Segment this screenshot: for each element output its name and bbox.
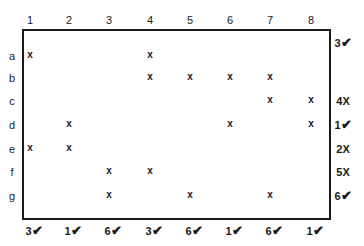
grid-mark: x [187,190,193,200]
check-icon: ✔ [111,223,122,238]
column-label: 7 [267,14,273,26]
column-label: 2 [66,14,72,26]
column-label: 5 [187,14,193,26]
column-tally: 3✔ [145,225,162,237]
grid-mark: x [106,166,112,176]
grid-mark: x [267,95,273,105]
column-tally: 1✔ [225,225,242,237]
grid-mark: x [267,190,273,200]
column-tally: 6✔ [185,225,202,237]
grid-mark: x [66,119,72,129]
grid-mark: x [227,119,233,129]
grid-mark: x [147,166,153,176]
check-icon: ✔ [32,223,43,238]
check-icon: ✔ [152,223,163,238]
row-tally: 3✔ [334,37,351,49]
check-icon: ✔ [341,35,352,50]
row-tally: 5X [336,166,349,178]
row-tally: 1✔ [334,119,351,131]
column-tally: 1✔ [64,225,81,237]
row-label: g [9,190,15,202]
check-icon: ✔ [232,223,243,238]
row-label: a [9,50,15,62]
column-tally: 1✔ [306,225,323,237]
grid-mark: x [147,72,153,82]
row-label: d [9,119,15,131]
check-icon: ✔ [341,188,352,203]
grid-mark: x [308,95,314,105]
grid-mark: x [147,50,153,60]
check-icon: ✔ [192,223,203,238]
row-label: b [9,72,15,84]
grid-mark: x [106,190,112,200]
cross-icon: X [342,143,349,155]
grid-mark: x [227,72,233,82]
row-tally: 6✔ [334,190,351,202]
column-label: 3 [106,14,112,26]
column-label: 4 [147,14,153,26]
column-tally: 3✔ [25,225,42,237]
grid-mark: x [187,72,193,82]
row-tally: 4X [336,95,349,107]
cross-icon: X [342,95,349,107]
grid-mark: x [27,50,33,60]
row-label: e [9,143,15,155]
row-label: f [10,166,13,178]
check-icon: ✔ [313,223,324,238]
column-label: 6 [227,14,233,26]
column-tally: 6✔ [265,225,282,237]
column-tally: 6✔ [104,225,121,237]
row-label: c [9,95,15,107]
row-tally: 2X [336,143,349,155]
column-label: 8 [308,14,314,26]
column-label: 1 [27,14,33,26]
check-icon: ✔ [71,223,82,238]
check-icon: ✔ [341,117,352,132]
grid-mark: x [308,119,314,129]
cross-icon: X [342,166,349,178]
grid-mark: x [27,143,33,153]
grid-mark: x [267,72,273,82]
check-icon: ✔ [272,223,283,238]
grid-mark: x [66,143,72,153]
